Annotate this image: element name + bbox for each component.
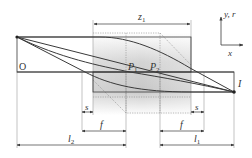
axis-y-label: y, r [223, 9, 236, 19]
l2-label: l2 [68, 133, 75, 146]
optical-diagram: z1 O P1 P2 I y, r x s s f f l2 l1 [0, 0, 252, 158]
z1-label: z1 [137, 11, 146, 24]
l1-label: l1 [194, 133, 201, 146]
s-right-label: s [195, 102, 199, 112]
source-point [15, 35, 18, 38]
axis-x-label: x [227, 48, 232, 58]
image-point [232, 90, 236, 94]
coordinate-axes: y, r x [221, 9, 243, 58]
origin-label: O [19, 61, 26, 72]
dimension-lines [17, 112, 234, 145]
f-left-label: f [100, 119, 104, 130]
s-left-label: s [85, 102, 89, 112]
i-label: I [237, 78, 242, 89]
f-right-label: f [180, 119, 184, 130]
